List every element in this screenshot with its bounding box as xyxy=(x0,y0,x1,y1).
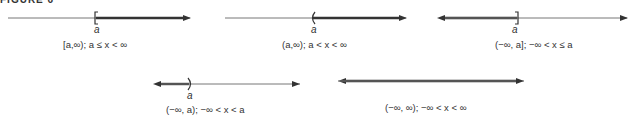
interval-caption: [a,∞); a ≤ x < ∞ xyxy=(63,39,127,50)
arrow-right-icon xyxy=(292,81,300,87)
interval-caption: (−∞, a]; −∞ < x ≤ a xyxy=(495,39,573,50)
arrow-left-icon xyxy=(437,15,445,21)
arrow-right-icon xyxy=(399,15,407,21)
endpoint-label: a xyxy=(187,90,193,101)
number-line-open-left: a (a,∞); a < x < ∞ xyxy=(210,0,420,55)
endpoint-label: a xyxy=(311,24,317,35)
arrow-right-icon xyxy=(516,78,524,84)
number-line-closed-left: a [a,∞); a ≤ x < ∞ xyxy=(0,0,210,55)
endpoint-label: a xyxy=(512,24,518,35)
number-line-open-right: a (−∞, a); −∞ < x < a xyxy=(140,60,340,116)
interval-caption: (a,∞); a < x < ∞ xyxy=(282,39,347,50)
endpoint-label: a xyxy=(94,24,100,35)
arrow-left-icon xyxy=(153,81,161,87)
arrow-right-icon xyxy=(620,15,628,21)
arrow-right-icon xyxy=(183,15,191,21)
interval-caption: (−∞, ∞); −∞ < x < ∞ xyxy=(385,102,466,113)
number-line-whole: (−∞, ∞); −∞ < x < ∞ xyxy=(330,60,540,116)
number-line-closed-right: a (−∞, a]; −∞ < x ≤ a xyxy=(415,0,635,55)
interval-caption: (−∞, a); −∞ < x < a xyxy=(166,104,245,115)
